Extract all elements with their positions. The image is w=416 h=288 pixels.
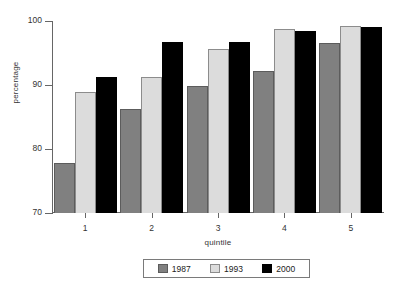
y-tick-label-80: 80: [33, 143, 42, 153]
legend-item-1987[interactable]: 1987: [158, 264, 191, 274]
bar-1987-q2[interactable]: [120, 109, 141, 213]
x-tick-1: [85, 213, 86, 218]
y-tick-80: 80: [45, 149, 52, 150]
y-tick-90: 90: [45, 85, 52, 86]
legend-swatch-1993-icon: [210, 264, 220, 273]
legend-item-1993[interactable]: 1993: [210, 264, 243, 274]
x-axis-title: quintile: [52, 238, 384, 247]
bar-groups: 12345: [52, 21, 384, 213]
bar-2000-q2[interactable]: [162, 42, 183, 214]
bar-2000-q4[interactable]: [295, 31, 316, 213]
bar-group-4: 4: [251, 21, 317, 213]
bar-1993-q5[interactable]: [340, 26, 361, 214]
y-tick-label-100: 100: [28, 15, 42, 25]
bar-1993-q2[interactable]: [141, 77, 162, 213]
y-tick-label-90: 90: [33, 79, 42, 89]
bar-1987-q3[interactable]: [187, 86, 208, 213]
bar-chart: percentage 100 90 80 70 12345 quintile 1…: [0, 0, 416, 288]
y-axis-title: percentage: [11, 38, 20, 128]
legend-swatch-2000-icon: [262, 264, 272, 273]
legend-label-1993: 1993: [224, 264, 243, 274]
bar-1987-q1[interactable]: [54, 163, 75, 213]
bar-2000-q3[interactable]: [229, 42, 250, 213]
bar-1987-q4[interactable]: [253, 71, 274, 213]
plot-area: 100 90 80 70 12345: [52, 21, 384, 213]
bar-group-2: 2: [118, 21, 184, 213]
x-tick-label-1: 1: [52, 223, 118, 233]
bar-1993-q4[interactable]: [274, 29, 295, 213]
bar-1987-q5[interactable]: [319, 43, 340, 213]
bar-2000-q5[interactable]: [361, 27, 382, 213]
bar-2000-q1[interactable]: [96, 77, 117, 213]
x-tick-3: [218, 213, 219, 218]
x-tick-4: [284, 213, 285, 218]
legend-label-2000: 2000: [276, 264, 295, 274]
legend-swatch-1987-icon: [158, 264, 168, 273]
x-tick-label-4: 4: [251, 223, 317, 233]
legend-item-2000[interactable]: 2000: [262, 264, 295, 274]
bar-group-1: 1: [52, 21, 118, 213]
x-tick-label-2: 2: [118, 223, 184, 233]
x-tick-2: [152, 213, 153, 218]
x-tick-5: [351, 213, 352, 218]
bar-group-3: 3: [185, 21, 251, 213]
x-tick-label-3: 3: [185, 223, 251, 233]
y-tick-70: 70: [45, 213, 52, 214]
y-tick-100: 100: [45, 21, 52, 22]
bar-1993-q3[interactable]: [208, 49, 229, 213]
bar-1993-q1[interactable]: [75, 92, 96, 213]
y-tick-label-70: 70: [33, 207, 42, 217]
legend-label-1987: 1987: [172, 264, 191, 274]
chart-legend: 1987 1993 2000: [143, 259, 310, 278]
bar-group-5: 5: [318, 21, 384, 213]
x-tick-label-5: 5: [318, 223, 384, 233]
